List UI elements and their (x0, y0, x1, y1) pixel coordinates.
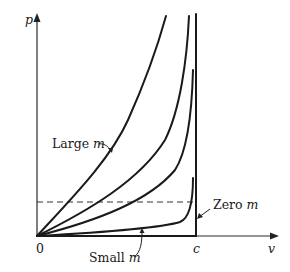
v-axis-arrow-icon (270, 233, 279, 240)
c-mark-label: c (193, 241, 200, 256)
curve-medium-m-1 (37, 16, 189, 236)
momentum-velocity-diagram: p v 0 c Large m Small m Zero m (0, 0, 290, 272)
origin-label: 0 (36, 241, 44, 256)
curve-large-m (37, 16, 166, 236)
p-axis-arrow-icon (34, 13, 41, 22)
p-axis-label: p (25, 12, 33, 27)
large-m-label: Large m (52, 136, 105, 151)
zero-m-label: Zero m (213, 197, 258, 212)
curve-small-m (37, 178, 193, 236)
zero-m-pointer-arrow-icon (197, 213, 203, 219)
v-axis-label: v (268, 241, 275, 256)
small-m-label: Small m (89, 250, 141, 265)
